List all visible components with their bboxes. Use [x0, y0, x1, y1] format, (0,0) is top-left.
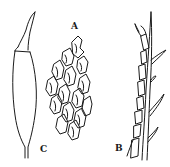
panel-label-a: A	[71, 22, 78, 31]
figure-drawing	[0, 0, 170, 167]
panel-c-capsule-drawing	[13, 12, 37, 158]
panel-b-branch-drawing	[127, 12, 166, 160]
panel-a-cells-drawing	[46, 36, 92, 140]
botanical-figure: A B C	[0, 0, 170, 167]
panel-label-b: B	[115, 144, 123, 153]
panel-label-c: C	[40, 145, 47, 154]
